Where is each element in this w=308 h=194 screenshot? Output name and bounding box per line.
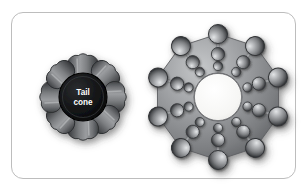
outer-sphere (209, 151, 228, 170)
middle-sphere (211, 47, 224, 60)
figure-svg: Tail cone (0, 0, 308, 194)
middle-sphere (211, 133, 224, 146)
tail-cone-label-line1: Tail (76, 88, 90, 97)
inner-sphere (213, 61, 222, 70)
annulus-center-hole (194, 73, 241, 120)
tail-cone-label-line2: cone (73, 98, 93, 107)
outer-sphere (209, 25, 228, 44)
figure-root: Tail cone (0, 0, 308, 194)
inner-sphere (213, 123, 222, 132)
right-diagram-annular-array (146, 25, 290, 170)
